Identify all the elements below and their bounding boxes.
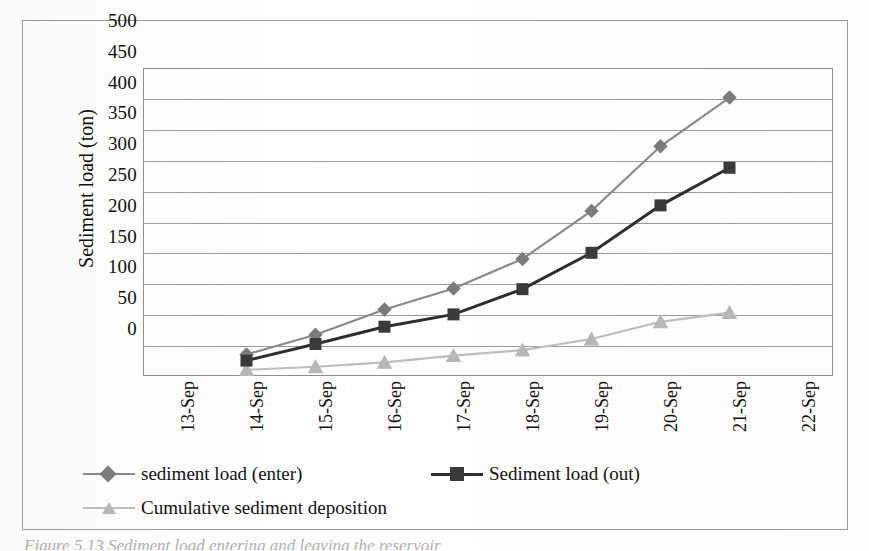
data-point-square xyxy=(379,321,391,333)
data-point-square xyxy=(448,308,460,320)
series-line xyxy=(247,98,730,355)
legend-key xyxy=(431,467,483,481)
y-tick-label: 200 xyxy=(77,196,137,215)
legend-key xyxy=(83,467,135,481)
data-point-square xyxy=(517,283,529,295)
data-point-diamond xyxy=(722,90,736,104)
x-tick-label: 22-Sep xyxy=(789,379,809,457)
chart-legend: sediment load (enter)Sediment load (out)… xyxy=(83,463,783,529)
x-tick-label: 13-Sep xyxy=(168,379,188,457)
y-tick-label: 350 xyxy=(77,103,137,122)
figure-frame: Sediment load (ton) 05010015020025030035… xyxy=(22,20,848,530)
legend-item[interactable]: sediment load (enter) xyxy=(83,463,302,485)
data-point-square xyxy=(724,162,736,174)
data-point-diamond xyxy=(377,302,391,316)
y-tick-label: 150 xyxy=(77,227,137,246)
y-tick-label: 0 xyxy=(77,319,137,338)
x-tick-label: 21-Sep xyxy=(720,379,740,457)
y-tick-label: 250 xyxy=(77,165,137,184)
y-tick-label: 50 xyxy=(77,288,137,307)
series-layer xyxy=(143,68,833,376)
x-tick-label: 18-Sep xyxy=(513,379,533,457)
x-axis-tick-labels: 13-Sep14-Sep15-Sep16-Sep17-Sep18-Sep19-S… xyxy=(143,379,833,459)
y-axis-tick-labels: 050100150200250300350400450500 xyxy=(71,21,137,329)
x-tick-label: 19-Sep xyxy=(582,379,602,457)
legend-label: sediment load (enter) xyxy=(141,463,302,485)
y-tick-label: 400 xyxy=(77,73,137,92)
legend-marker-square-icon xyxy=(450,467,464,481)
data-point-square xyxy=(310,338,322,350)
data-point-square xyxy=(655,199,667,211)
y-tick-label: 500 xyxy=(77,11,137,30)
data-point-diamond xyxy=(515,252,529,266)
x-tick-label: 20-Sep xyxy=(651,379,671,457)
x-tick-label: 16-Sep xyxy=(375,379,395,457)
legend-label: Cumulative sediment deposition xyxy=(141,497,387,519)
data-point-square xyxy=(241,355,253,367)
x-tick-label: 15-Sep xyxy=(306,379,326,457)
legend-item[interactable]: Sediment load (out) xyxy=(431,463,640,485)
legend-item[interactable]: Cumulative sediment deposition xyxy=(83,497,387,519)
figure-caption: Figure 5.13 Sediment load entering and l… xyxy=(24,536,724,550)
legend-marker-triangle-icon xyxy=(102,502,116,514)
legend-label: Sediment load (out) xyxy=(489,463,640,485)
x-tick-label: 17-Sep xyxy=(444,379,464,457)
y-tick-label: 450 xyxy=(77,42,137,61)
legend-marker-diamond-icon xyxy=(100,466,117,483)
data-point-square xyxy=(586,247,598,259)
legend-key xyxy=(83,501,135,515)
y-tick-label: 100 xyxy=(77,257,137,276)
data-point-diamond xyxy=(446,281,460,295)
y-tick-label: 300 xyxy=(77,134,137,153)
data-point-triangle xyxy=(722,305,738,319)
figure-page: Sediment load (ton) 05010015020025030035… xyxy=(0,0,869,551)
x-tick-label: 14-Sep xyxy=(237,379,257,457)
